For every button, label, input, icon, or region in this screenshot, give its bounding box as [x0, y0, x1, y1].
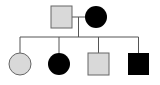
- connector-lines: [20, 17, 139, 53]
- pedigree-chart: [0, 0, 160, 85]
- daughter-affected-female: [48, 53, 70, 75]
- son-unaffected-male: [88, 53, 109, 75]
- mother-affected-female: [85, 6, 107, 28]
- son-affected-male: [128, 53, 149, 75]
- daughter-unaffected-female: [9, 53, 31, 75]
- father-unaffected-male: [51, 6, 72, 28]
